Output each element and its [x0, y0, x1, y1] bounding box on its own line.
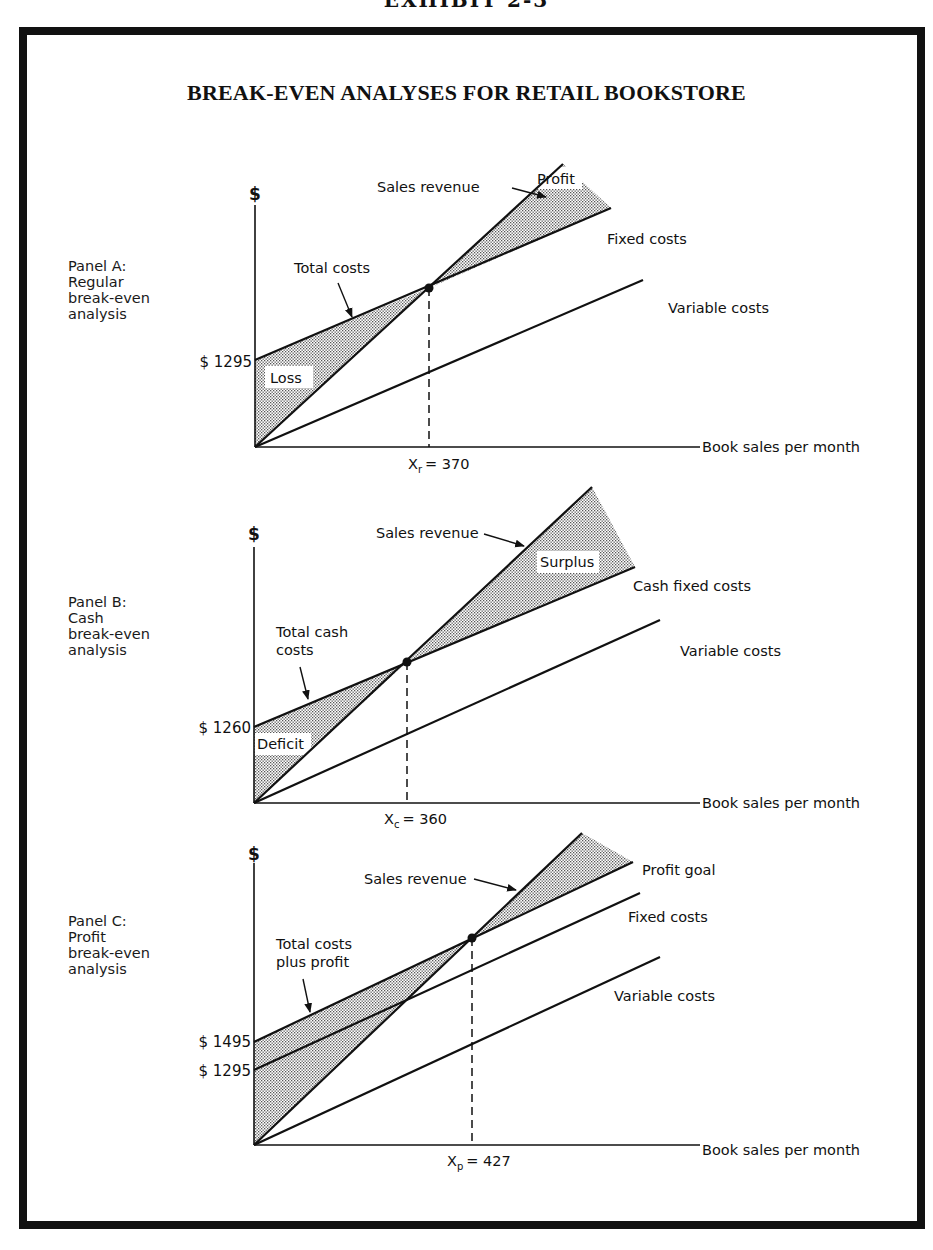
sales-revenue-label: Sales revenue — [377, 179, 480, 195]
cash-fixed-costs-label: Cash fixed costs — [633, 578, 751, 594]
fixed-costs-label: Fixed costs — [628, 909, 708, 925]
y-axis-label: $ — [249, 184, 261, 204]
surplus-region — [407, 487, 635, 662]
break-even-point — [425, 284, 434, 293]
sales-revenue-line — [255, 164, 563, 447]
total-costs-plus-profit-label: Total costsplus profit — [275, 936, 352, 970]
variable-costs-label: Variable costs — [614, 988, 715, 1004]
profit-label: Profit — [537, 171, 575, 187]
break-even-charts: $ $ 1295 Sales revenue Profit Fixed cost… — [0, 0, 933, 1250]
break-even-value-label: Xr= 370 — [408, 456, 470, 475]
panel-c-chart: $ $ 1495 $ 1295 Sales revenue Profit goa… — [199, 833, 861, 1172]
y-tick-top-label: $ 1495 — [199, 1033, 252, 1051]
y-axis-label: $ — [248, 844, 260, 864]
sales-revenue-label: Sales revenue — [376, 525, 479, 541]
y-tick-label: $ 1295 — [200, 353, 253, 371]
deficit-label: Deficit — [257, 736, 304, 752]
fixed-costs-line — [254, 893, 640, 1070]
loss-label: Loss — [270, 370, 302, 386]
total-costs-line — [255, 208, 611, 360]
y-axis-label: $ — [248, 524, 260, 544]
fixed-costs-label: Fixed costs — [607, 231, 687, 247]
total-cash-costs-label: Total cashcosts — [275, 624, 348, 658]
profit-goal-line — [254, 862, 633, 1042]
break-even-point — [468, 934, 477, 943]
break-even-value-label: Xc= 360 — [384, 811, 447, 830]
variable-costs-label: Variable costs — [680, 643, 781, 659]
x-axis-label: Book sales per month — [702, 439, 860, 455]
profit-goal-label: Profit goal — [642, 862, 715, 878]
break-even-value-label: Xp= 427 — [447, 1153, 511, 1172]
y-tick-bottom-label: $ 1295 — [199, 1062, 252, 1080]
x-axis-label: Book sales per month — [702, 795, 860, 811]
total-costs-label: Total costs — [293, 260, 370, 276]
x-axis-label: Book sales per month — [702, 1142, 860, 1158]
panel-b-chart: $ $ 1260 Sales revenue Surplus Cash fixe… — [199, 487, 861, 830]
break-even-point — [403, 658, 412, 667]
panel-a-chart: $ $ 1295 Sales revenue Profit Fixed cost… — [200, 164, 861, 475]
sales-revenue-label: Sales revenue — [364, 871, 467, 887]
variable-costs-label: Variable costs — [668, 300, 769, 316]
y-tick-label: $ 1260 — [199, 719, 252, 737]
surplus-label: Surplus — [540, 554, 594, 570]
